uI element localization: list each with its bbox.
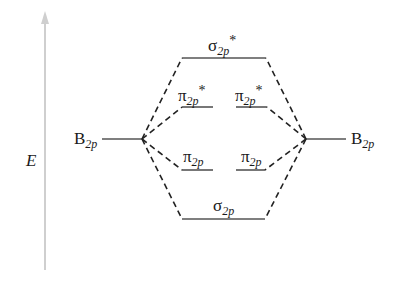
pi-left-label: π2p bbox=[183, 148, 204, 168]
subscript: 2p bbox=[187, 94, 199, 108]
arrow-up-icon bbox=[41, 11, 49, 24]
sigma-star-label: σ2p* bbox=[208, 34, 236, 57]
mo-diagram: E B2p B2p σ2p* π2p* π2p* π2p π2p σ2p bbox=[0, 0, 403, 284]
subscript: 2p bbox=[85, 137, 97, 151]
subscript: 2p bbox=[362, 137, 374, 151]
symbol: π bbox=[178, 86, 187, 105]
right-atomic-orbital-label: B2p bbox=[351, 130, 374, 150]
superscript: * bbox=[256, 83, 263, 98]
symbol: B bbox=[74, 129, 85, 148]
symbol: π bbox=[183, 147, 192, 166]
symbol: π bbox=[235, 86, 244, 105]
sigma-label: σ2p bbox=[213, 197, 234, 217]
subscript: 2p bbox=[192, 155, 204, 169]
pi-star-left-label: π2p* bbox=[178, 84, 206, 107]
subscript: 2p bbox=[250, 155, 262, 169]
superscript: * bbox=[229, 33, 236, 48]
superscript: * bbox=[199, 83, 206, 98]
symbol: π bbox=[241, 147, 250, 166]
left-atomic-orbital-label: B2p bbox=[74, 130, 97, 150]
energy-axis bbox=[41, 11, 49, 270]
correlation-lines bbox=[142, 58, 306, 219]
symbol: B bbox=[351, 129, 362, 148]
subscript: 2p bbox=[222, 204, 234, 218]
subscript: 2p bbox=[244, 94, 256, 108]
subscript: 2p bbox=[217, 44, 229, 58]
symbol: σ bbox=[213, 196, 222, 215]
pi-star-right-label: π2p* bbox=[235, 84, 263, 107]
diagram-lines bbox=[0, 0, 403, 284]
symbol: σ bbox=[208, 36, 217, 55]
pi-right-label: π2p bbox=[241, 148, 262, 168]
energy-axis-label: E bbox=[26, 152, 36, 169]
